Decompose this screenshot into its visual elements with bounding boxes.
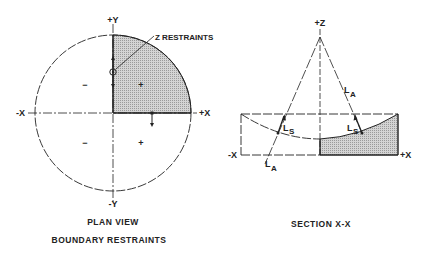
neg-y-label: -Y — [109, 199, 118, 209]
section-neg-x-label: -X — [228, 150, 237, 160]
boundary-restraints-caption: BOUNDARY RESTRAINTS — [52, 235, 167, 245]
la-lower-label: L A — [265, 159, 277, 173]
section-view: +Z L A L S L S — [228, 18, 411, 229]
left-ls-node — [277, 132, 280, 135]
neg-x-label: -X — [16, 108, 25, 118]
pos-x-label: +X — [199, 108, 210, 118]
arrow-down-icon — [150, 123, 154, 127]
sign-upper-right: + — [138, 80, 143, 90]
shaded-quadrant — [113, 35, 191, 113]
z-restraint-dot — [112, 71, 114, 73]
la-sub: A — [271, 164, 277, 173]
pos-z-label: +Z — [315, 18, 326, 28]
ls-sub: S — [289, 127, 295, 136]
sign-upper-left: − — [82, 80, 87, 90]
pos-y-label: +Y — [107, 15, 118, 25]
edge-arrow-node — [151, 112, 154, 115]
la-sub: A — [350, 90, 356, 99]
left-cable-line — [265, 37, 320, 164]
section-caption: SECTION X-X — [291, 219, 351, 229]
ls-sub: S — [353, 127, 359, 136]
plan-view: Z RESTRAINTS − + − + +Y -Y -X +X PLAN VI… — [16, 15, 214, 245]
z-restraints-label: Z RESTRAINTS — [155, 33, 214, 42]
sign-lower-right: + — [138, 138, 143, 148]
plan-view-caption: PLAN VIEW — [87, 217, 139, 227]
sign-lower-left: − — [82, 138, 87, 148]
diagram-canvas: Z RESTRAINTS − + − + +Y -Y -X +X PLAN VI… — [0, 0, 424, 254]
ls-right-label: L S — [347, 123, 359, 136]
right-ls-node — [361, 132, 364, 135]
section-pos-x-label: +X — [400, 150, 411, 160]
